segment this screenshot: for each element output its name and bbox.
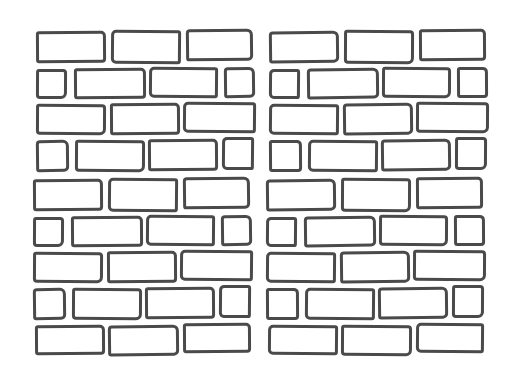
brick (75, 140, 145, 172)
brick (457, 67, 488, 98)
brick (149, 67, 218, 99)
brick (108, 325, 179, 357)
brick (452, 285, 484, 318)
brick (382, 67, 451, 98)
brick (266, 252, 336, 284)
brick-wall-drawing (0, 0, 513, 375)
brick (269, 104, 339, 136)
brick (36, 69, 67, 99)
brick (33, 288, 66, 320)
brick (341, 178, 411, 212)
brick (378, 287, 448, 320)
brick (33, 252, 103, 283)
brick (304, 216, 376, 248)
brick (416, 323, 484, 354)
brick (71, 216, 143, 248)
brick (219, 285, 251, 318)
brick (266, 217, 297, 247)
brick (308, 140, 378, 173)
brick (180, 250, 253, 282)
brick (413, 250, 486, 281)
brick (269, 31, 339, 64)
brick (340, 251, 410, 284)
brick (379, 215, 448, 246)
brick (266, 179, 336, 212)
brick (183, 102, 256, 134)
brick (145, 287, 215, 319)
brick (72, 288, 142, 320)
brick (416, 102, 489, 133)
brick (269, 140, 302, 172)
brick (148, 139, 218, 171)
brick (111, 30, 181, 65)
brick (183, 177, 250, 210)
brick (419, 29, 486, 61)
brick (33, 179, 103, 211)
brick (341, 325, 412, 356)
brick (268, 325, 338, 356)
brick (221, 215, 252, 246)
brick (186, 29, 253, 62)
brick (454, 215, 485, 246)
brick (455, 137, 487, 170)
brick (305, 288, 375, 321)
brick (146, 215, 215, 247)
brick (108, 178, 178, 213)
brick (269, 69, 300, 99)
brick (36, 31, 106, 63)
brick (307, 68, 379, 100)
brick (107, 251, 177, 283)
brick (222, 137, 254, 170)
brick (416, 177, 483, 209)
brick (74, 68, 146, 100)
brick (224, 67, 255, 98)
brick (344, 30, 414, 64)
brick (110, 103, 180, 135)
brick (343, 103, 413, 136)
brick (381, 139, 451, 172)
brick (33, 217, 64, 247)
brick (36, 104, 106, 135)
brick (266, 288, 299, 320)
brick (183, 323, 251, 353)
brick (36, 140, 69, 172)
brick (35, 325, 105, 355)
